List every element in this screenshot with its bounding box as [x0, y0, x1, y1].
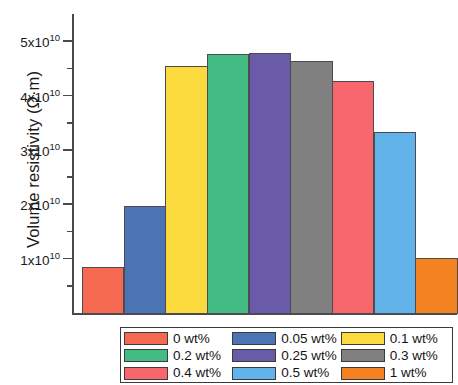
bar: [82, 267, 124, 314]
legend-color-swatch: [341, 367, 385, 380]
legend-label: 1 wt%: [390, 366, 427, 380]
legend-row: 0.2 wt%0.25 wt%0.3 wt%: [124, 347, 449, 364]
legend-row: 0.4 wt%0.5 wt%1 wt%: [124, 365, 449, 382]
plot-area: 5x10104x10103x10102x10101x1010: [72, 14, 457, 315]
legend-label: 0 wt%: [173, 332, 210, 346]
y-axis-minor-tick: [67, 285, 72, 287]
legend-color-swatch: [341, 332, 385, 345]
legend-label: 0.5 wt%: [281, 366, 329, 380]
legend-item[interactable]: 0.5 wt%: [232, 366, 340, 380]
y-axis-title: Volume resistivity (Ω·m): [24, 35, 43, 285]
legend-color-swatch: [341, 349, 385, 362]
y-axis-major-tick: [63, 40, 72, 42]
y-axis-tick-label: 1x1010: [0, 250, 60, 268]
bar: [290, 61, 332, 314]
chart-legend: 0 wt%0.05 wt%0.1 wt%0.2 wt%0.25 wt%0.3 w…: [120, 327, 453, 383]
y-axis-line: [72, 14, 74, 315]
y-axis-major-tick: [63, 95, 72, 97]
y-axis-minor-tick: [67, 68, 72, 70]
legend-item[interactable]: 0.3 wt%: [341, 349, 449, 363]
legend-item[interactable]: 0.25 wt%: [232, 349, 340, 363]
bar: [249, 53, 291, 314]
legend-color-swatch: [124, 332, 168, 345]
legend-color-swatch: [232, 332, 276, 345]
y-axis-minor-tick: [67, 231, 72, 233]
bar: [165, 66, 207, 314]
bar: [207, 54, 249, 314]
y-axis-tick-label: 5x1010: [0, 32, 60, 50]
legend-color-swatch: [124, 349, 168, 362]
y-axis-tick-label: 3x1010: [0, 141, 60, 159]
y-axis-major-tick: [63, 203, 72, 205]
y-axis-major-tick: [63, 149, 72, 151]
legend-item[interactable]: 0 wt%: [124, 332, 232, 346]
legend-item[interactable]: 0.4 wt%: [124, 366, 232, 380]
bar: [374, 132, 416, 314]
legend-color-swatch: [232, 349, 276, 362]
legend-item[interactable]: 0.2 wt%: [124, 349, 232, 363]
legend-item[interactable]: 0.05 wt%: [232, 332, 340, 346]
bar: [332, 81, 374, 314]
y-axis-tick-label: 2x1010: [0, 196, 60, 214]
y-axis-minor-tick: [67, 122, 72, 124]
y-axis-minor-tick: [67, 176, 72, 178]
legend-label: 0.2 wt%: [173, 349, 221, 363]
legend-label: 0.3 wt%: [390, 349, 438, 363]
legend-row: 0 wt%0.05 wt%0.1 wt%: [124, 330, 449, 347]
legend-label: 0.25 wt%: [281, 349, 337, 363]
legend-color-swatch: [232, 367, 276, 380]
legend-label: 0.4 wt%: [173, 366, 221, 380]
legend-color-swatch: [124, 367, 168, 380]
y-axis-major-tick: [63, 258, 72, 260]
bar: [124, 206, 166, 314]
legend-label: 0.1 wt%: [390, 332, 438, 346]
bar-series: [82, 14, 457, 315]
legend-item[interactable]: 0.1 wt%: [341, 332, 449, 346]
bar: [415, 258, 457, 314]
legend-item[interactable]: 1 wt%: [341, 366, 449, 380]
legend-label: 0.05 wt%: [281, 332, 337, 346]
y-axis-tick-label: 4x1010: [0, 87, 60, 105]
